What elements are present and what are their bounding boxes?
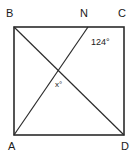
geometry-drawing — [0, 0, 139, 157]
vertex-label-b: B — [6, 8, 13, 19]
point-label-n: N — [80, 8, 88, 19]
vertex-label-d: D — [121, 141, 129, 152]
geometry-figure: B N C A D 124° x° — [0, 0, 139, 157]
angle-label-124: 124° — [91, 38, 110, 47]
vertex-label-c: C — [118, 8, 126, 19]
angle-label-x: x° — [55, 81, 62, 89]
vertex-label-a: A — [8, 141, 15, 152]
